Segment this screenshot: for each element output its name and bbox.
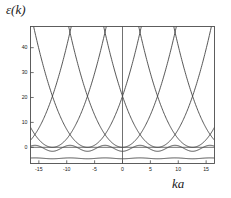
x-tick-label: -15 xyxy=(29,166,49,172)
y-axis-label: ε(k) xyxy=(6,2,26,18)
y-tick-label: 40 xyxy=(9,44,28,50)
x-tick-label: 5 xyxy=(140,166,160,172)
x-axis-label: ka xyxy=(172,176,184,192)
y-tick-label: 0 xyxy=(9,144,28,150)
y-tick-label: 10 xyxy=(9,119,28,125)
x-tick-label: 0 xyxy=(113,166,133,172)
band-structure-figure: ε(k) ka -15-10-5051015010203040 xyxy=(0,0,231,198)
x-tick-label: -10 xyxy=(57,166,77,172)
x-tick-label: 15 xyxy=(196,166,216,172)
x-tick-label: -5 xyxy=(85,166,105,172)
x-tick-label: 10 xyxy=(168,166,188,172)
y-tick-label: 30 xyxy=(9,69,28,75)
y-tick-label: 20 xyxy=(9,94,28,100)
